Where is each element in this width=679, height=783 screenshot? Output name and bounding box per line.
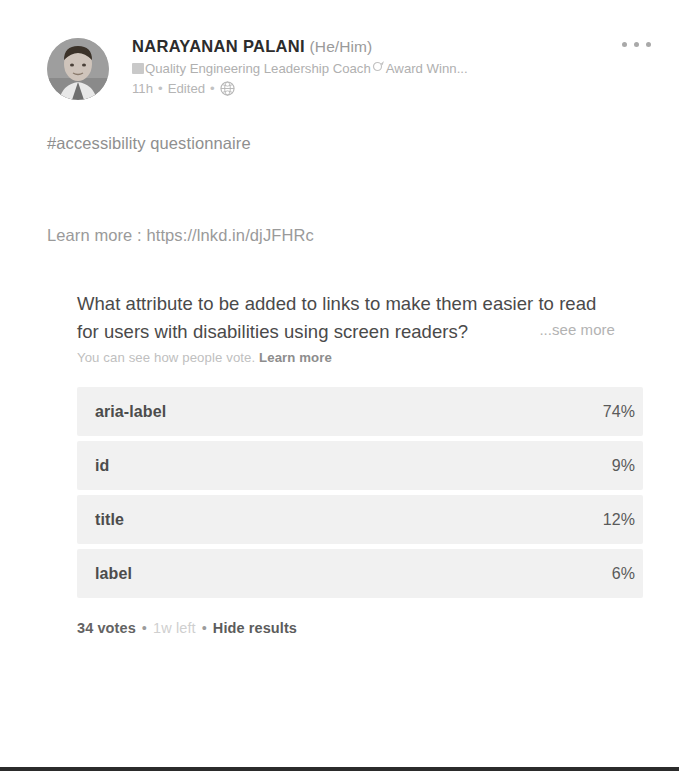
globe-icon bbox=[220, 81, 235, 96]
ellipsis-dot-1 bbox=[622, 42, 627, 47]
poll: What attribute to be added to links to m… bbox=[47, 290, 647, 636]
hide-results-button[interactable]: Hide results bbox=[213, 620, 297, 636]
ellipsis-icon[interactable] bbox=[620, 36, 653, 53]
bottom-divider bbox=[0, 767, 679, 771]
poll-footer: 34 votes • 1w left • Hide results bbox=[47, 620, 647, 636]
post-time: 11h bbox=[132, 80, 153, 97]
poll-option-bar bbox=[77, 549, 643, 598]
poll-footer-separator-1: • bbox=[142, 620, 147, 636]
post-meta: 11h • Edited • bbox=[132, 80, 632, 97]
ellipsis-dot-2 bbox=[634, 42, 639, 47]
post-hashtag[interactable]: #accessibility questionnaire bbox=[47, 134, 251, 153]
poll-option-bar bbox=[77, 441, 643, 490]
poll-option-label: label bbox=[77, 565, 132, 583]
author-headline: Quality Engineering Leadership Coach Awa… bbox=[132, 60, 562, 77]
post-link-line[interactable]: Learn more : https://lnkd.in/djJFHRc bbox=[47, 226, 314, 245]
linkedin-post-card: NARAYANAN PALANI (He/Him) Quality Engine… bbox=[0, 0, 679, 768]
author-name[interactable]: NARAYANAN PALANI bbox=[132, 37, 305, 55]
poll-option-percent: 74% bbox=[603, 403, 635, 421]
poll-option-percent: 12% bbox=[603, 511, 635, 529]
poll-subtext-text: You can see how people vote. bbox=[77, 350, 259, 365]
page-badge-icon bbox=[132, 63, 144, 74]
post-edited-label: Edited bbox=[168, 80, 205, 97]
poll-time-left: 1w left bbox=[153, 620, 196, 636]
poll-option-label: title bbox=[77, 511, 124, 529]
poll-option-bar bbox=[77, 495, 643, 544]
poll-option-row[interactable]: aria-label 74% bbox=[77, 387, 643, 436]
author-headline-suffix: Award Winn... bbox=[386, 60, 468, 77]
post-header: NARAYANAN PALANI (He/Him) Quality Engine… bbox=[47, 36, 647, 106]
meta-separator-1: • bbox=[158, 80, 163, 97]
poll-option-percent: 9% bbox=[612, 457, 635, 475]
author-pronouns: (He/Him) bbox=[310, 38, 373, 55]
poll-options: aria-label 74% id 9% title 12% label 6% bbox=[47, 387, 647, 598]
meta-separator-2: • bbox=[210, 80, 215, 97]
poll-option-row[interactable]: id 9% bbox=[77, 441, 643, 490]
see-more-button[interactable]: ...see more bbox=[533, 316, 615, 344]
author-line: NARAYANAN PALANI (He/Him) bbox=[132, 36, 632, 57]
poll-option-label: aria-label bbox=[77, 403, 166, 421]
poll-subtext: You can see how people vote. Learn more bbox=[47, 350, 647, 365]
poll-question-text: What attribute to be added to links to m… bbox=[77, 293, 596, 342]
poll-learn-more-link[interactable]: Learn more bbox=[259, 350, 332, 365]
poll-option-percent: 6% bbox=[612, 565, 635, 583]
poll-vote-count: 34 votes bbox=[77, 620, 136, 636]
ellipsis-dot-3 bbox=[646, 42, 651, 47]
poll-option-row[interactable]: title 12% bbox=[77, 495, 643, 544]
avatar[interactable] bbox=[47, 38, 109, 100]
author-identity: NARAYANAN PALANI (He/Him) Quality Engine… bbox=[132, 36, 632, 97]
author-headline-text: Quality Engineering Leadership Coach bbox=[145, 60, 371, 77]
poll-footer-separator-2: • bbox=[202, 620, 207, 636]
medal-icon bbox=[372, 60, 385, 77]
poll-option-label: id bbox=[77, 457, 109, 475]
poll-question: What attribute to be added to links to m… bbox=[47, 290, 617, 346]
poll-option-row[interactable]: label 6% bbox=[77, 549, 643, 598]
